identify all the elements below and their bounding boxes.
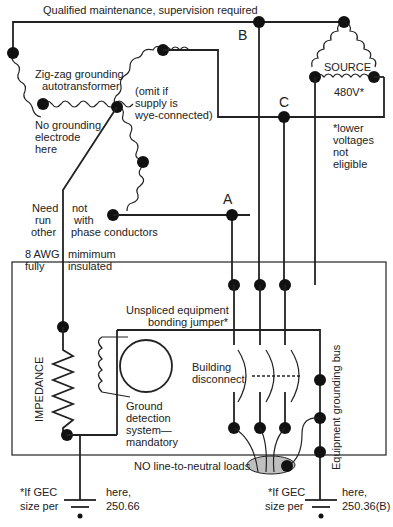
node-b	[253, 16, 265, 28]
gec-left-4: 250.66	[106, 500, 140, 512]
source-note-3: not	[333, 146, 348, 158]
omit-note-3: wye-connected)	[134, 109, 213, 121]
node-a	[226, 209, 238, 221]
node-zigzag-left	[37, 98, 49, 110]
node-c	[278, 111, 290, 123]
phase-a-label: A	[223, 191, 233, 207]
source-voltage: 480V*	[334, 86, 365, 98]
awg-1: 8 AWG	[25, 248, 59, 260]
not-with-2: with	[73, 214, 94, 226]
node-egb-3	[314, 446, 326, 458]
no-electrode-2: electrode	[35, 131, 80, 143]
phase-c-label: C	[279, 94, 289, 110]
disconnect-label-1: Building	[192, 361, 231, 373]
source-note-4: eligible	[333, 158, 367, 170]
disconnect-label-2: disconnect	[192, 373, 245, 385]
node-load-ground	[281, 460, 293, 472]
source-note-1: *lower	[333, 122, 364, 134]
node-zigzag-bottom	[137, 156, 149, 168]
gds-label-4: mandatory	[126, 436, 178, 448]
gec-right-3: here,	[342, 486, 367, 498]
egb-label: Equipment grounding bus	[330, 344, 342, 470]
node-zigzag-top	[7, 47, 19, 59]
impedance-label: IMPEDANCE	[33, 357, 45, 422]
zigzag-label-1: Zig-zag grounding	[35, 68, 124, 80]
no-electrode-3: here	[35, 143, 57, 155]
gec-right-1: *If GEC	[268, 486, 305, 498]
need-run-1: Need	[32, 202, 58, 214]
gec-left-3: here,	[106, 486, 131, 498]
gec-right-2: size per	[265, 500, 304, 512]
gds-label-1: Ground	[126, 400, 163, 412]
source-label: SOURCE	[324, 61, 371, 73]
omit-note-2: supply is	[135, 97, 178, 109]
hrg-system-diagram: Qualified maintenance, supervision requi…	[0, 0, 393, 527]
no-loads-label: NO line-to-neutral loads	[134, 460, 251, 472]
phase-b-label: B	[238, 27, 247, 43]
omit-note-1: (omit if	[135, 85, 169, 97]
gds-label-2: detection	[126, 412, 171, 424]
no-electrode-1: No grounding	[35, 119, 101, 131]
zigzag-label-2: autotransformer	[42, 80, 120, 92]
zigzag-coil-left	[12, 53, 41, 117]
load-ground-wire	[288, 418, 320, 466]
ground-detection-meter	[120, 340, 172, 392]
jumper-label-2: bonding jumper*	[148, 316, 229, 328]
node-source-top	[338, 16, 350, 28]
jumper-label-1: Unspliced equipment	[126, 304, 229, 316]
right-ground-icon	[319, 514, 324, 519]
gds-label-3: system—	[126, 424, 172, 436]
need-run-3: other	[31, 226, 56, 238]
need-run-2: run	[35, 214, 51, 226]
supervision-label: Qualified maintenance, supervision requi…	[43, 4, 258, 16]
left-ground-icon	[78, 514, 83, 519]
gec-left-1: *If GEC	[20, 486, 57, 498]
gec-left-2: size per	[20, 500, 59, 512]
awg-3: mimimum	[68, 248, 116, 260]
not-with-1: not	[72, 202, 87, 214]
gec-right-4: 250.36(B)	[342, 500, 390, 512]
not-with-3: phase conductors	[71, 226, 158, 238]
impedance-resistor	[53, 327, 73, 435]
node-egb-1	[314, 374, 326, 386]
source-note-2: voltages	[333, 134, 374, 146]
detection-coil	[99, 337, 131, 397]
